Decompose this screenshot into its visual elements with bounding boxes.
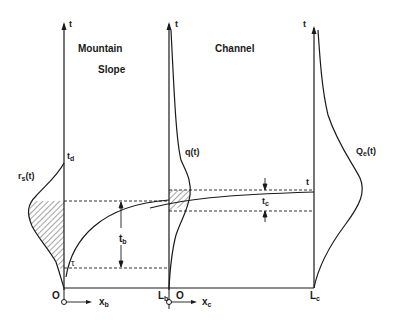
mountain-channel-diagram — [0, 0, 398, 325]
channel-inflow-time-axis — [167, 22, 172, 290]
tau-label: τ — [71, 259, 75, 268]
lateral-inflow-curve — [169, 30, 190, 288]
td-label: td — [67, 152, 74, 162]
outlet-discharge-label: Qe(t) — [356, 147, 376, 157]
lc-label: Lc — [310, 291, 320, 302]
xb-label: xb — [99, 297, 109, 308]
channel-outlet-time-axis — [312, 26, 317, 288]
rainfall-excess-hatched — [29, 201, 64, 272]
t-axis-label-mid: t — [175, 20, 178, 29]
t-marker-label: t — [306, 178, 309, 187]
slope-label: Slope — [98, 65, 125, 75]
lb-label: Lb — [158, 291, 168, 302]
mountain-label: Mountain — [78, 44, 122, 54]
slope-travel-curve — [66, 200, 169, 277]
channel-label: Channel — [215, 44, 254, 54]
rainfall-excess-label: rs(t) — [18, 172, 34, 182]
t-axis-label-right: t — [303, 20, 306, 29]
lateral-inflow-label: q(t) — [185, 148, 200, 157]
t-axis-label-left: t — [69, 20, 72, 29]
xb-axis-arrow — [62, 288, 93, 305]
tb-label: tb — [119, 234, 127, 245]
origin-mid-label: O — [176, 291, 184, 301]
outlet-hydrograph-curve — [314, 30, 362, 288]
tc-label: tc — [262, 197, 269, 207]
xc-label: xc — [202, 297, 211, 308]
origin-left-label: O — [52, 291, 60, 301]
